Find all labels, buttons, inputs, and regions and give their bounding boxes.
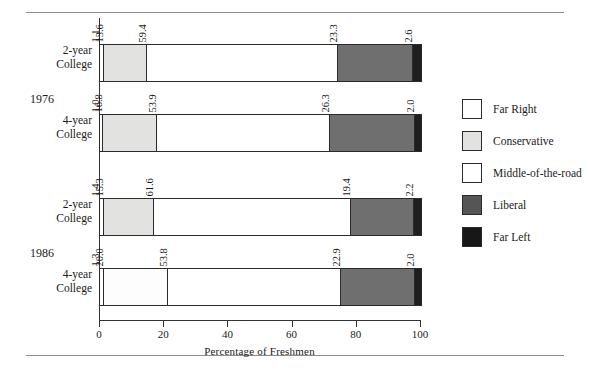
row-label-line2: College bbox=[28, 212, 92, 226]
segment-value-label: 2.0 bbox=[405, 99, 416, 112]
bar-segment-middle: 61.6 bbox=[154, 199, 352, 235]
bar-1976-4-year-college: 1.016.853.926.32.0 bbox=[99, 114, 422, 152]
segment-value-label: 15.3 bbox=[95, 178, 106, 196]
group-label-1976: 1976 bbox=[30, 92, 84, 107]
bar-1976-2-year-college: 1.113.659.423.32.6 bbox=[99, 44, 422, 82]
bar-segment-conservative: 16.8 bbox=[103, 115, 157, 151]
x-tick-label-80: 80 bbox=[336, 328, 376, 340]
x-tick-label-60: 60 bbox=[272, 328, 312, 340]
bar-segment-middle: 53.9 bbox=[157, 115, 330, 151]
group-label-1986: 1986 bbox=[30, 246, 84, 261]
legend: Far RightConservativeMiddle-of-the-roadL… bbox=[462, 93, 582, 253]
row-label-1976-2-year: 2-year College bbox=[28, 44, 92, 71]
legend-swatch-conservative bbox=[462, 131, 482, 151]
legend-label: Far Left bbox=[493, 231, 530, 243]
bar-segment-conservative: 13.6 bbox=[104, 45, 148, 81]
x-axis-title: Percentage of Freshmen bbox=[99, 345, 420, 357]
legend-swatch-far-left bbox=[462, 227, 482, 247]
legend-item-conservative: Conservative bbox=[462, 125, 582, 157]
top-rule bbox=[26, 12, 564, 13]
legend-label: Middle-of-the-road bbox=[493, 167, 582, 179]
legend-label: Conservative bbox=[493, 135, 554, 147]
legend-label: Far Right bbox=[493, 103, 537, 115]
bar-segment-middle: 59.4 bbox=[147, 45, 338, 81]
legend-swatch-far-right bbox=[462, 99, 482, 119]
x-axis-line bbox=[99, 320, 421, 321]
bar-segment-far-left: 2.6 bbox=[413, 45, 421, 81]
segment-value-label: 2.6 bbox=[403, 29, 414, 42]
bar-segment-liberal: 26.3 bbox=[330, 115, 414, 151]
x-tick-80 bbox=[356, 321, 357, 327]
row-label-1986-4-year: 4-year College bbox=[28, 268, 92, 295]
bar-1986-2-year-college: 1.415.361.619.42.2 bbox=[99, 198, 422, 236]
row-label-line1: 4-year bbox=[28, 268, 92, 282]
x-tick-label-100: 100 bbox=[400, 328, 440, 340]
segment-value-label: 22.9 bbox=[332, 248, 343, 266]
x-tick-0 bbox=[99, 321, 100, 327]
segment-value-label: 53.8 bbox=[159, 248, 170, 266]
plot-area: 020406080100 1.113.659.423.32.61.016.853… bbox=[99, 18, 420, 320]
segment-value-label: 26.3 bbox=[321, 94, 332, 112]
bar-segment-liberal: 19.4 bbox=[351, 199, 413, 235]
legend-item-far-left: Far Left bbox=[462, 221, 582, 253]
segment-value-label: 23.3 bbox=[328, 24, 339, 42]
segment-value-label: 61.6 bbox=[144, 178, 155, 196]
row-label-line1: 4-year bbox=[28, 114, 92, 128]
segment-value-label: 16.8 bbox=[94, 94, 105, 112]
x-tick-60 bbox=[292, 321, 293, 327]
row-label-line2: College bbox=[28, 58, 92, 72]
x-tick-label-20: 20 bbox=[143, 328, 183, 340]
x-tick-label-40: 40 bbox=[207, 328, 247, 340]
x-tick-100 bbox=[420, 321, 421, 327]
segment-value-label: 2.0 bbox=[405, 253, 416, 266]
legend-swatch-liberal bbox=[462, 195, 482, 215]
segment-value-label: 53.9 bbox=[148, 94, 159, 112]
legend-item-middle: Middle-of-the-road bbox=[462, 157, 582, 189]
x-tick-40 bbox=[227, 321, 228, 327]
x-tick-label-0: 0 bbox=[79, 328, 119, 340]
legend-item-far-right: Far Right bbox=[462, 93, 582, 125]
bar-1986-4-year-college: 1.320.053.822.92.0 bbox=[99, 268, 422, 306]
bar-segment-far-left: 2.0 bbox=[415, 115, 421, 151]
legend-label: Liberal bbox=[493, 199, 526, 211]
bar-segment-middle: 53.8 bbox=[168, 269, 341, 305]
row-label-line2: College bbox=[28, 128, 92, 142]
figure: 1976 1986 2-year College 4-year College … bbox=[0, 0, 590, 370]
x-tick-20 bbox=[163, 321, 164, 327]
row-label-line2: College bbox=[28, 282, 92, 296]
row-label-1976-4-year: 4-year College bbox=[28, 114, 92, 141]
row-label-line1: 2-year bbox=[28, 198, 92, 212]
row-label-1986-2-year: 2-year College bbox=[28, 198, 92, 225]
segment-value-label: 20.0 bbox=[95, 248, 106, 266]
bar-segment-far-left: 2.2 bbox=[414, 199, 421, 235]
bar-segment-conservative: 15.3 bbox=[104, 199, 153, 235]
legend-swatch-middle bbox=[462, 163, 482, 183]
bar-segment-liberal: 23.3 bbox=[338, 45, 413, 81]
legend-item-liberal: Liberal bbox=[462, 189, 582, 221]
row-label-line1: 2-year bbox=[28, 44, 92, 58]
segment-value-label: 19.4 bbox=[342, 178, 353, 196]
segment-value-label: 2.2 bbox=[404, 183, 415, 196]
segment-value-label: 13.6 bbox=[94, 24, 105, 42]
segment-value-label: 59.4 bbox=[138, 24, 149, 42]
bar-segment-conservative: 20.0 bbox=[104, 269, 168, 305]
bar-segment-far-left: 2.0 bbox=[415, 269, 421, 305]
bar-segment-liberal: 22.9 bbox=[341, 269, 415, 305]
